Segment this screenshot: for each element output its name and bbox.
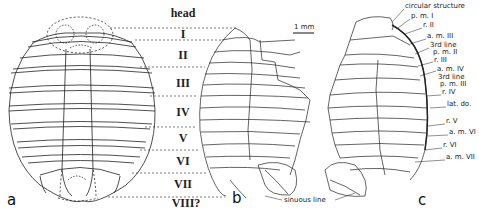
annotation-sinuous-line: sinuous line bbox=[284, 196, 326, 204]
panel-letter-c: c bbox=[418, 191, 426, 209]
segment-label-III: III bbox=[176, 76, 190, 91]
segment-label-VII: VII bbox=[174, 177, 192, 192]
panel-letter-b: b bbox=[232, 189, 242, 207]
annotation-r-VI: r. VI bbox=[443, 141, 457, 149]
annotation-am-VI: a. m. VI bbox=[449, 128, 476, 136]
figure-artwork bbox=[0, 0, 479, 213]
annotation-circular-structure: circular structure bbox=[405, 2, 465, 10]
segment-label-I: I bbox=[181, 27, 186, 42]
panel-a-schematic bbox=[9, 17, 155, 202]
annotation-pm-II: p. m. II bbox=[433, 48, 457, 56]
segment-label-head: head bbox=[171, 6, 196, 21]
annotation-am-IV: a. m. IV bbox=[437, 65, 464, 73]
annotation-r-V: r. V bbox=[446, 117, 457, 125]
segment-guide-lines bbox=[108, 28, 237, 197]
annotation-r-II: r. II bbox=[423, 21, 434, 29]
annotation-r-IV: r. IV bbox=[442, 88, 456, 96]
annotation-am-VII: a. m. VII bbox=[446, 153, 475, 161]
annotation-pm-III: p. m. III bbox=[440, 80, 466, 88]
segment-label-V: V bbox=[179, 131, 188, 146]
annotation-r-III: r. III bbox=[434, 56, 447, 64]
annotation-pm-I: p. m. I bbox=[411, 12, 433, 20]
annotation-lat-do: lat. do. bbox=[447, 100, 471, 108]
segment-label-VIII: VIII? bbox=[172, 196, 201, 211]
panel-c-drawing bbox=[325, 17, 428, 197]
panel-b-drawing bbox=[200, 28, 310, 198]
scale-bar-label: 1 mm bbox=[294, 23, 314, 31]
annotation-am-III: a. m. III bbox=[427, 32, 453, 40]
segment-label-IV: IV bbox=[176, 105, 189, 120]
segment-label-II: II bbox=[178, 48, 187, 63]
segment-label-VI: VI bbox=[176, 154, 189, 169]
panel-letter-a: a bbox=[7, 191, 16, 209]
